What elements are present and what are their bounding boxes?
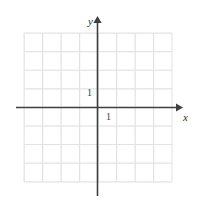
y-axis-unit-tick-label: 1 (87, 88, 92, 98)
x-axis-label: x (183, 112, 188, 123)
coordinate-plane-svg (0, 0, 198, 212)
y-axis-label: y (88, 16, 93, 27)
x-axis-unit-tick-label: 1 (106, 112, 111, 122)
y-axis-arrowhead (93, 16, 101, 23)
coordinate-plane-figure: y x 1 1 (0, 0, 198, 212)
x-axis-arrowhead (176, 103, 183, 111)
